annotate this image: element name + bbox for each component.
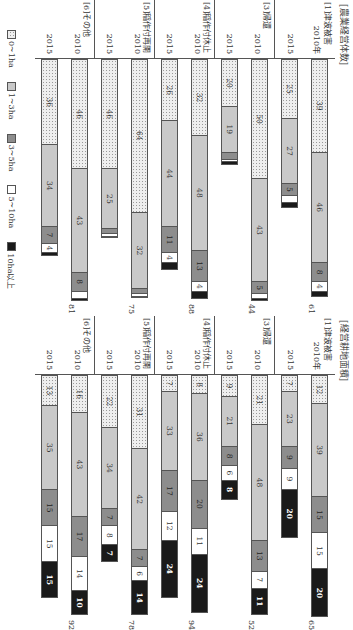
bar-segment-1~3ha: 48: [192, 136, 209, 251]
bar-segment-1~3ha: 39: [312, 404, 329, 498]
bar-segment-3~5ha: 13: [252, 541, 269, 572]
bar-segment-3~5ha: [222, 153, 239, 160]
legend-item: 3~5ha: [7, 134, 16, 172]
bar-total-label: 65: [307, 620, 316, 630]
stacked-bar: 921868: [222, 375, 239, 500]
bar-segment-3~5ha: 15: [312, 497, 329, 533]
bar-segment-1~3ha: 25: [102, 169, 119, 229]
stacked-bar: 6432: [132, 59, 149, 298]
bar-segment-1~3ha: 21: [222, 397, 239, 447]
panel-farmland-area: [経営耕地面積] [1]津波被害2010年2015[3]帰還20102015[4…: [23, 316, 353, 627]
bar-total-label: 52: [247, 620, 256, 630]
bar-segment-0~1ha: 8: [192, 375, 209, 394]
bar-segment-3~5ha: 8: [72, 273, 89, 292]
bar-total-label: 75: [127, 304, 136, 314]
bar-segment-3~5ha: 13: [192, 251, 209, 282]
bar-segment-0~1ha: 16: [72, 375, 89, 413]
bar-segment-5~10ha: 11: [192, 529, 209, 555]
bar-segment-0~1ha: 36: [42, 59, 59, 145]
stacked-bar: 50435: [252, 59, 269, 301]
bar-segment-3~5ha: 11: [162, 227, 179, 253]
stacked-bar: 4625: [102, 59, 119, 238]
bar-segment-1~3ha: 46: [312, 153, 329, 263]
bar-segment-0~1ha: 12: [312, 375, 329, 404]
stacked-bar: 2019: [222, 59, 239, 165]
bar-segment-3~5ha: 17: [72, 517, 89, 558]
stacked-bar: 46438: [72, 59, 89, 301]
bar-segment-10ha以上: [312, 292, 329, 297]
bar-segment-3~5ha: 7: [102, 509, 119, 526]
bar-segment-1~3ha: 43: [72, 169, 89, 272]
group-label: [4]稲作付休止: [202, 318, 211, 369]
bar-segment-0~1ha: 50: [252, 59, 269, 179]
group-label: [1]津波被害: [323, 2, 332, 45]
year-label: 2010: [73, 34, 82, 54]
category-group: [3]帰還20102015: [215, 316, 275, 374]
bar-total-label: 81: [67, 304, 76, 314]
bar-segment-10ha以上: 20: [312, 569, 329, 617]
bar-segment-1~3ha: 43: [72, 413, 89, 516]
category-axis: [1]津波被害2010年2015[3]帰還20102015[4]稲作付休止201…: [35, 316, 335, 375]
panel-title: [農業経営体数]: [338, 4, 351, 65]
bar-segment-10ha以上: [282, 203, 299, 208]
category-group: [5]稲作付再開20102015: [95, 0, 155, 58]
year-label: 2010: [193, 34, 202, 54]
bar-segment-0~1ha: 46: [72, 59, 89, 169]
bar-segment-1~3ha: 43: [252, 179, 269, 282]
category-group: [5]稲作付再開20102015: [95, 316, 155, 374]
bar-segment-10ha以上: 14: [132, 581, 149, 615]
legend-swatch-icon: [7, 134, 16, 143]
stacked-bar: 1643171410: [72, 375, 89, 615]
bar-segment-3~5ha: 7: [42, 227, 59, 244]
category-group: [6]その他20102015: [35, 316, 95, 374]
group-label: [6]その他: [82, 2, 91, 37]
category-group: [1]津波被害2010年2015: [275, 316, 335, 374]
year-label: 2015: [225, 350, 234, 370]
bar-segment-1~3ha: 44: [162, 121, 179, 227]
bar-segment-0~1ha: 7: [162, 375, 179, 392]
bar-segment-10ha以上: [102, 237, 119, 239]
bar-segment-3~5ha: 5: [252, 282, 269, 294]
year-label: 2015: [165, 350, 174, 370]
bar-segment-10ha以上: [132, 297, 149, 299]
year-label: 2015: [165, 34, 174, 54]
bar-total-label: 94: [187, 620, 196, 630]
bar-segment-0~1ha: 32: [192, 59, 209, 136]
bar-segment-0~1ha: 31: [132, 375, 149, 449]
bar-segment-1~3ha: 23: [282, 392, 299, 447]
panel-title: [経営耕地面積]: [338, 320, 351, 381]
stacked-bar: 7239920: [282, 375, 299, 538]
bar-segment-1~3ha: 35: [42, 406, 59, 490]
bar-segment-1~3ha: 19: [222, 107, 239, 153]
bar-segment-0~1ha: 64: [132, 59, 149, 213]
bar-segment-3~5ha: 8: [312, 263, 329, 282]
bar-segment-0~1ha: 25: [282, 59, 299, 119]
bar-segment-1~3ha: 48: [252, 425, 269, 540]
stacked-bar: 363474: [42, 59, 59, 256]
bar-segment-3~5ha: 8: [222, 447, 239, 466]
stacked-bar: 3248134: [192, 59, 209, 299]
bar-segment-3~5ha: 20: [192, 481, 209, 529]
stacked-bar: 25275: [282, 59, 299, 208]
bar-segment-5~10ha: 7: [252, 572, 269, 589]
legend-swatch-icon: [7, 30, 16, 39]
bar-segment-10ha以上: 10: [72, 591, 89, 615]
bar-segment-10ha以上: [72, 299, 89, 301]
legend: 0~1ha1~3ha3~5ha5~10ha10ha以上: [6, 30, 17, 289]
stacked-bar: 1239151520: [312, 375, 329, 617]
bar-total-label: 78: [127, 620, 136, 630]
legend-swatch-icon: [7, 242, 16, 251]
group-label: [3]帰還: [262, 2, 271, 29]
year-label: 2010年: [312, 342, 323, 370]
bar-segment-5~10ha: 9: [282, 469, 299, 491]
bar-total-label: 61: [307, 304, 316, 314]
bar-segment-0~1ha: 13: [42, 375, 59, 406]
stacked-bar: 394684: [312, 59, 329, 297]
bar-segment-5~10ha: 6: [222, 466, 239, 480]
bar-segment-0~1ha: 21: [252, 375, 269, 425]
category-group: [6]その他20102015: [35, 0, 95, 58]
bar-segment-1~3ha: 27: [282, 119, 299, 184]
bar-segment-10ha以上: 24: [162, 541, 179, 599]
year-label: 2010: [73, 350, 82, 370]
